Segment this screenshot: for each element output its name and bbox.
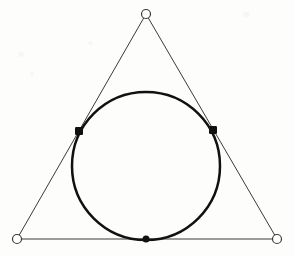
tangency-point-markers <box>75 126 217 243</box>
inscribed-circle-group <box>72 92 220 240</box>
figure-canvas <box>0 0 295 256</box>
triangle-edge-left <box>17 14 146 239</box>
left-tangency-point-marker <box>75 127 83 135</box>
triangle-group <box>17 14 277 239</box>
right-tangency-point-marker <box>209 126 217 134</box>
bottom-tangency-point-marker <box>143 236 150 243</box>
bottom-left-vertex-marker <box>13 235 22 244</box>
triangle-vertex-markers <box>13 10 282 244</box>
inscribed-circle <box>72 92 220 240</box>
apex-vertex-marker <box>142 10 151 19</box>
bottom-right-vertex-marker <box>273 235 282 244</box>
geometry-diagram <box>0 0 295 256</box>
